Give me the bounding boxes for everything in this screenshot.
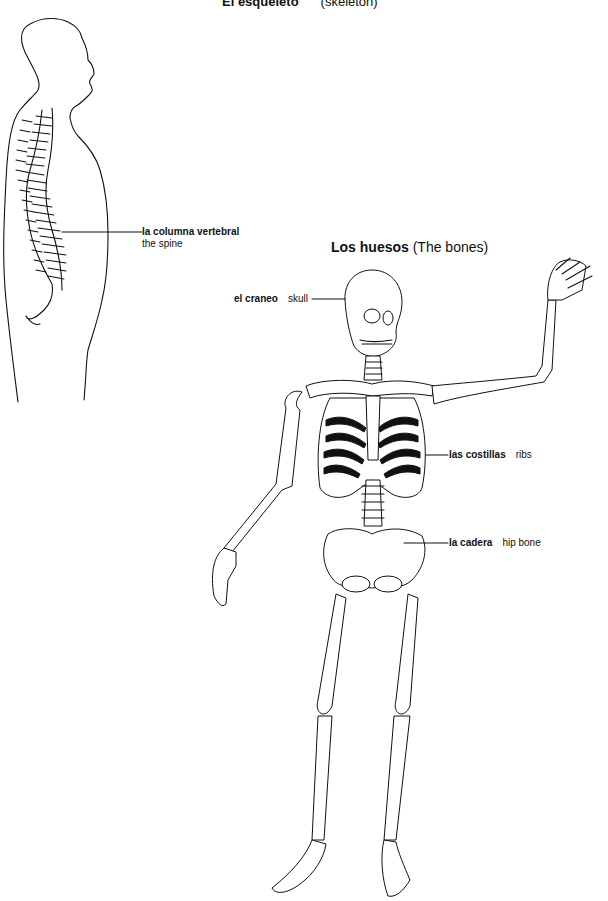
hip-label: la caderahip bone — [449, 537, 541, 549]
right-foot — [382, 840, 410, 896]
ribs-label: las costillasribs — [449, 449, 532, 461]
left-foot — [272, 840, 326, 892]
right-femur — [395, 594, 418, 714]
hip-label-spanish: la cadera — [449, 537, 492, 548]
skull-illustration — [345, 270, 402, 356]
ribs-label-english: ribs — [516, 449, 532, 460]
skull-label-spanish: el craneo — [234, 293, 278, 304]
sternum — [366, 396, 380, 460]
left-hand — [212, 548, 236, 606]
left-femur — [317, 594, 346, 714]
pelvis-illustration — [324, 529, 425, 592]
hip-label-english: hip bone — [502, 537, 540, 548]
right-tibia — [384, 716, 410, 840]
skull-label-english: skull — [288, 293, 308, 304]
left-tibia — [312, 716, 332, 840]
skull-label: el craneoskull — [234, 293, 308, 305]
ribs-label-spanish: las costillas — [449, 449, 506, 460]
